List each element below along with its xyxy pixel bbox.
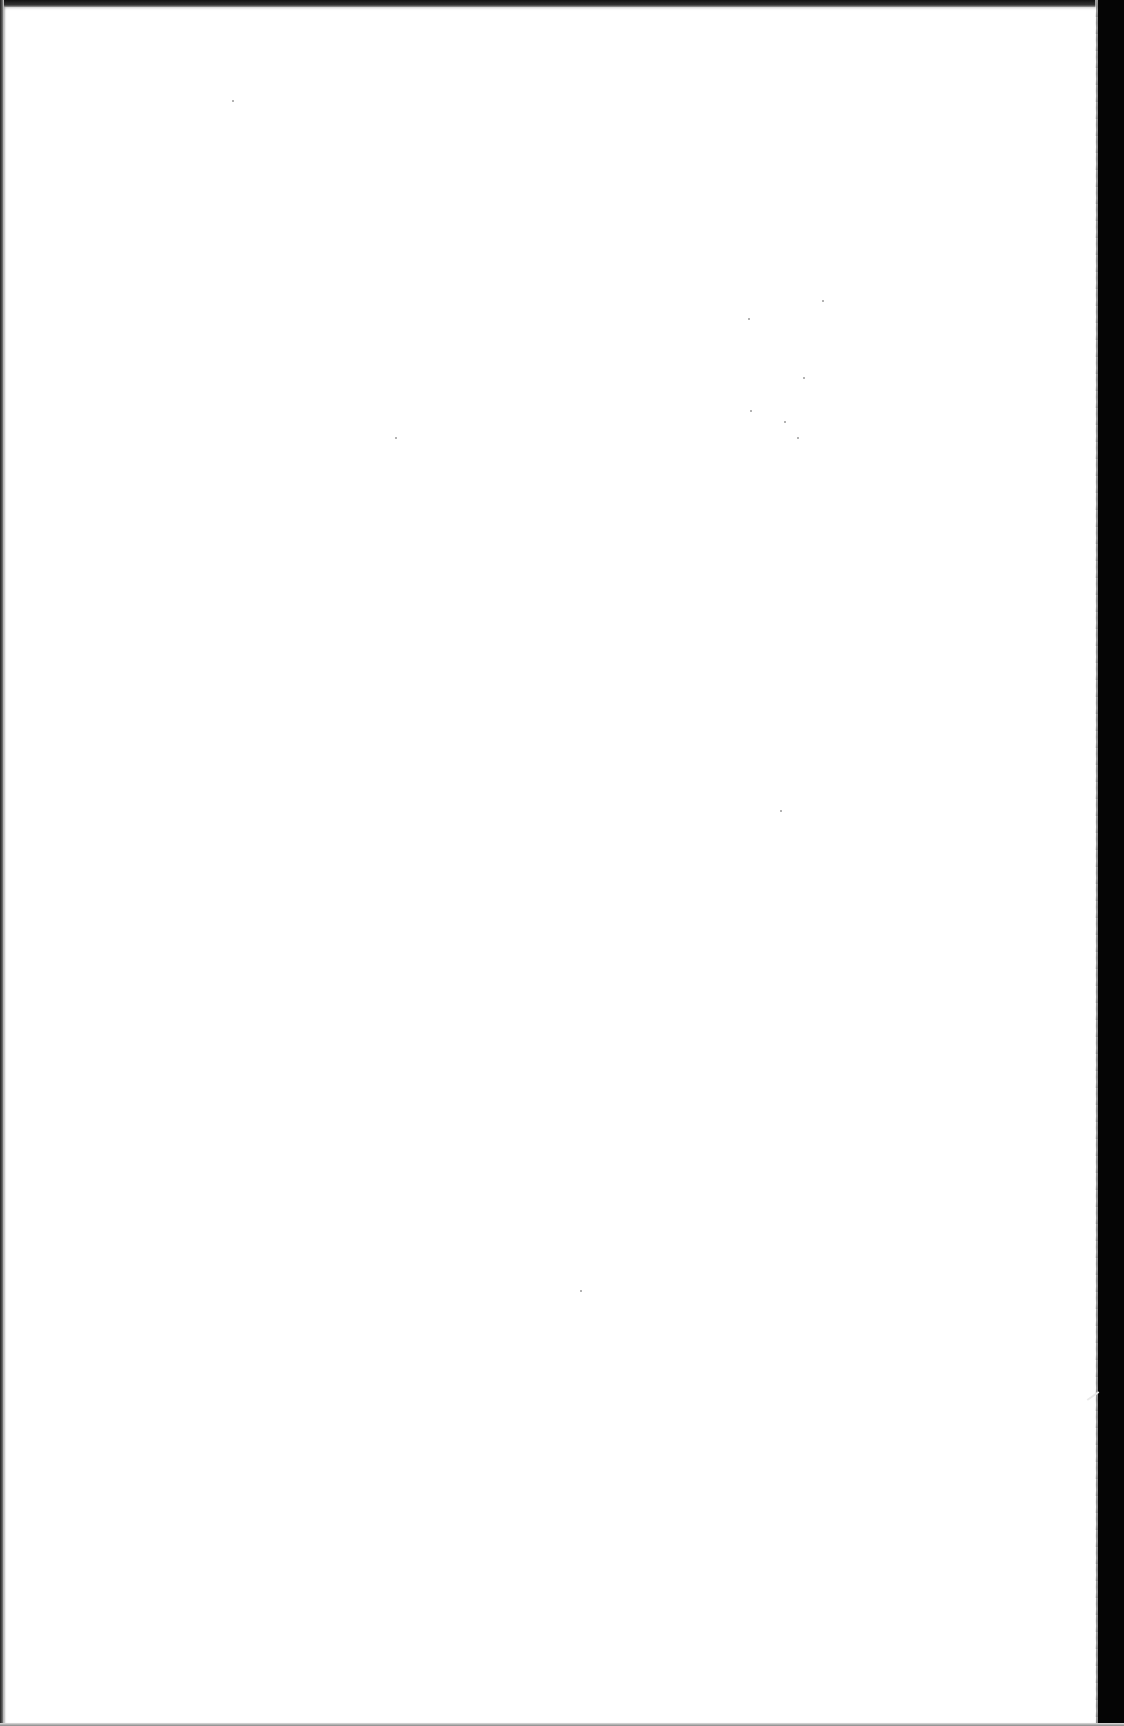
scan-border-right	[1096, 0, 1124, 1726]
dust-speck	[797, 437, 799, 439]
dust-speck	[395, 437, 397, 439]
dust-speck	[580, 1290, 582, 1292]
dust-speck	[232, 100, 234, 102]
scan-border-top	[0, 0, 1124, 7]
dust-speck	[784, 421, 786, 423]
dust-speck	[803, 377, 805, 379]
blank-page	[3, 6, 1098, 1724]
dust-speck	[748, 318, 750, 320]
dust-speck	[780, 810, 782, 812]
scan-border-left	[0, 0, 4, 1726]
dust-speck	[822, 300, 824, 302]
torn-page-edge	[1095, 0, 1098, 1726]
dust-speck	[750, 410, 752, 412]
